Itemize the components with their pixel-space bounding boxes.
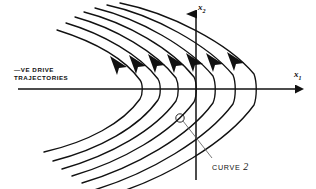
x-axis-label: x1 [294, 69, 302, 82]
diagram-canvas [0, 0, 316, 189]
curve-leader-line [183, 121, 212, 158]
curve-callout-number: 2 [243, 161, 248, 172]
flow-arrowheads [110, 52, 244, 75]
trajectory-diagram: —VE DRIVETRAJECTORIES CURVE 2 x2 x1 [0, 0, 316, 189]
curve-callout-label: CURVE 2 [212, 161, 248, 174]
negative-drive-note-line2: TRAJECTORIES [14, 74, 68, 81]
trajectory-curve-3 [62, 17, 178, 169]
flow-arrow-5 [186, 53, 203, 72]
negative-drive-note: —VE DRIVETRAJECTORIES [14, 66, 68, 82]
trajectory-curve-2 [53, 23, 160, 161]
flow-arrow-7 [227, 52, 244, 71]
curve-callout-text: CURVE [212, 163, 241, 172]
x-axis-label-subscript: 1 [299, 75, 302, 81]
flow-arrow-6 [206, 53, 223, 72]
trajectory-curve-1 [44, 30, 142, 152]
negative-drive-note-line1: —VE DRIVE [14, 66, 54, 73]
y-axis-label: x2 [198, 2, 206, 15]
y-axis-label-subscript: 2 [203, 8, 206, 14]
